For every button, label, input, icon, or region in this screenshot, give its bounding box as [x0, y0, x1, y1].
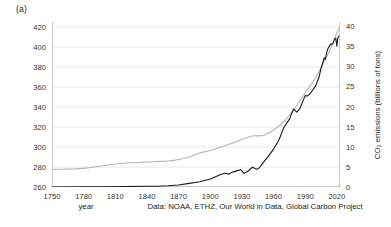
y-left-tick-label: 260 — [6, 183, 46, 192]
y-right-tick-label: 0 — [346, 183, 350, 192]
x-tick-label: 1930 — [233, 192, 250, 201]
y-right-tick-label: 15 — [346, 122, 354, 131]
tick-marks — [52, 26, 340, 187]
y-right-tick-label: 30 — [346, 62, 354, 71]
y-right-tick-label: 5 — [346, 162, 350, 171]
y-left-tick-label: 300 — [6, 143, 46, 152]
y-left-tick-label: 280 — [6, 163, 46, 172]
y-left-tick-label: 340 — [6, 103, 46, 112]
y-left-tick-label: 420 — [6, 23, 46, 32]
y-right-tick-label: 25 — [346, 82, 354, 91]
x-tick-label: 1750 — [44, 192, 61, 201]
plot-canvas — [52, 22, 340, 187]
plot-area: 2602803003203403603804004200510152025303… — [52, 22, 340, 187]
x-tick-label: 1840 — [138, 192, 155, 201]
co2-concentration-line — [52, 29, 339, 170]
x-axis-label: year — [78, 202, 93, 211]
x-tick-label: 1870 — [170, 192, 187, 201]
y-right-tick-label: 10 — [346, 142, 354, 151]
x-tick-label: 1810 — [107, 192, 124, 201]
y-left-tick-label: 400 — [6, 43, 46, 52]
y-right-tick-label: 40 — [346, 22, 354, 31]
y-left-tick-label: 320 — [6, 123, 46, 132]
y-axis-right-label: CO₂ emissions (billions of tons) — [373, 51, 382, 159]
gridlines — [52, 27, 340, 167]
y-left-tick-label: 380 — [6, 63, 46, 72]
panel-label: (a) — [16, 4, 27, 14]
emissions-line — [52, 36, 339, 187]
x-tick-label: 2020 — [328, 192, 345, 201]
x-tick-label: 1780 — [75, 192, 92, 201]
chart-figure: (a) atmospheric CO₂ (ppm) CO₂ emissions … — [0, 0, 391, 227]
x-tick-label: 1990 — [297, 192, 314, 201]
x-tick-label: 1900 — [202, 192, 219, 201]
y-right-tick-label: 35 — [346, 42, 354, 51]
y-right-tick-label: 20 — [346, 102, 354, 111]
source-caption: Data: NOAA, ETHZ, Our World in Data, Glo… — [147, 202, 362, 211]
x-tick-label: 1960 — [265, 192, 282, 201]
y-left-tick-label: 360 — [6, 83, 46, 92]
